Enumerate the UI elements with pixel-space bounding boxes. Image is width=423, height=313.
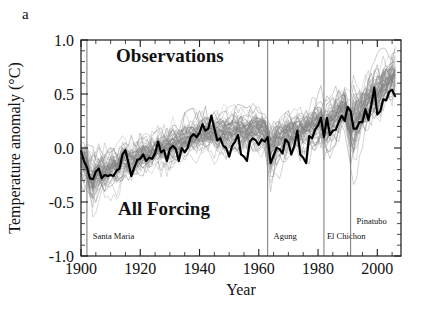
x-axis-title: Year <box>226 281 256 298</box>
x-tick-label: 1940 <box>184 260 216 277</box>
x-tick-label: 1920 <box>124 260 156 277</box>
y-tick-label: -1.0 <box>49 248 74 265</box>
volcano-label-pinatubo: Pinatubo <box>357 216 387 226</box>
y-tick-label: 1.0 <box>54 32 74 49</box>
axis-labels-group: 190019201940196019802000-1.0-0.50.00.51.… <box>6 32 393 299</box>
volcano-label-santa-maria: Santa Maria <box>93 231 135 241</box>
volcano-label-agung: Agung <box>274 231 298 241</box>
ensemble-lines-group <box>81 46 395 217</box>
x-tick-label: 2000 <box>361 260 393 277</box>
panel-letter-a: a <box>22 6 29 23</box>
x-tick-label: 1960 <box>243 260 275 277</box>
volcano-label-el-chichon: El Chichon <box>327 231 366 241</box>
y-tick-label: -0.5 <box>49 194 74 211</box>
x-tick-label: 1980 <box>302 260 334 277</box>
y-tick-label: 0.0 <box>54 140 74 157</box>
y-axis-title: Temperature anomaly (°C) <box>6 62 24 233</box>
observations-annotation: Observations <box>116 45 224 66</box>
y-tick-label: 0.5 <box>54 86 74 103</box>
all-forcing-annotation: All Forcing <box>118 198 211 219</box>
temperature-anomaly-chart: Santa MariaAgungEl ChichonPinatubo 19001… <box>0 0 423 313</box>
figure-panel: a Santa MariaAgungEl ChichonPinatubo 190… <box>0 0 423 313</box>
